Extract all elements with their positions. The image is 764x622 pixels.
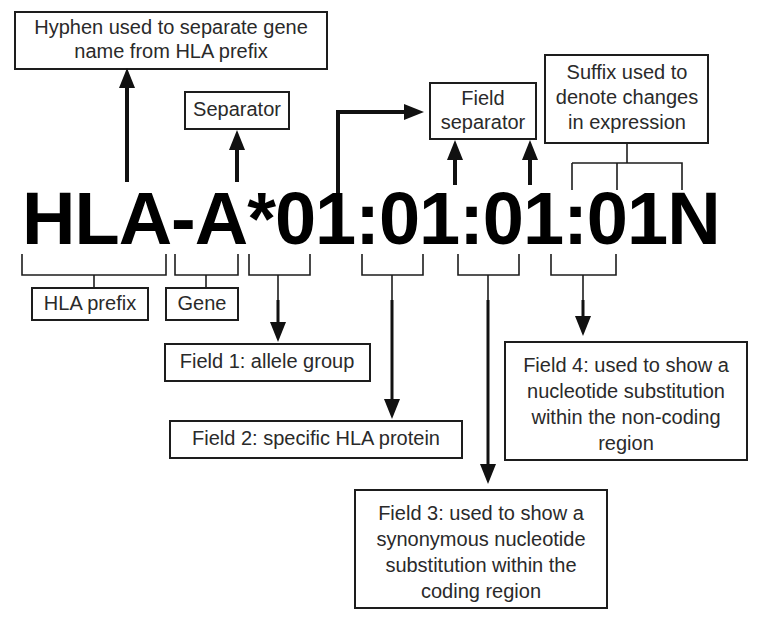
suffix-line2: denote changes [556, 86, 698, 108]
allele-string: HLA-A*01:01:01:01N [22, 177, 720, 260]
field4-arrow [575, 300, 591, 336]
field3-box: Field 3: used to show a synonymous nucle… [355, 490, 607, 608]
hyphen-note-arrow [119, 68, 135, 182]
bracket-field4 [551, 254, 616, 300]
field-separator-line2: separator [441, 111, 526, 133]
field3-line4: coding region [421, 580, 541, 602]
bracket-field2 [362, 254, 423, 300]
hla-nomenclature-diagram: Hyphen used to separate gene name from H… [0, 0, 764, 622]
field3-line1: Field 3: used to show a [378, 502, 585, 524]
gene-label: Gene [178, 292, 227, 314]
field2-arrow [384, 300, 400, 419]
field4-line3: within the non-coding [530, 406, 720, 428]
gene-box: Gene [166, 288, 238, 320]
hyphen-note-line1: Hyphen used to separate gene [34, 16, 308, 38]
field4-box: Field 4: used to show a nucleotide subst… [505, 342, 747, 460]
field1-arrow [270, 300, 286, 342]
bracket-field1 [249, 254, 310, 300]
field-separator-box: Field separator [430, 83, 536, 139]
suffix-line3: in expression [568, 111, 686, 133]
hyphen-note-box: Hyphen used to separate gene name from H… [15, 12, 327, 69]
bracket-field3 [458, 254, 519, 300]
field3-line3: substitution within the [385, 554, 576, 576]
field-separator-line1: Field [461, 87, 504, 109]
suffix-box: Suffix used to denote changes in express… [545, 55, 708, 143]
field2-label: Field 2: specific HLA protein [192, 427, 440, 449]
suffix-line1: Suffix used to [567, 61, 688, 83]
hyphen-note-line2: name from HLA prefix [74, 40, 267, 62]
field3-arrow [480, 300, 496, 484]
field4-line1: Field 4: used to show a [523, 354, 730, 376]
field4-line4: region [598, 432, 654, 454]
field3-line2: synonymous nucleotide [376, 528, 585, 550]
field2-box: Field 2: specific HLA protein [170, 421, 462, 458]
diagram-canvas: Hyphen used to separate gene name from H… [0, 0, 764, 622]
separator-box: Separator [185, 92, 289, 129]
hla-prefix-label: HLA prefix [44, 292, 136, 314]
field1-box: Field 1: allele group [165, 344, 370, 381]
hla-prefix-box: HLA prefix [32, 288, 148, 320]
separator-arrow [229, 130, 245, 182]
field1-label: Field 1: allele group [180, 350, 355, 372]
separator-label: Separator [193, 98, 281, 120]
field4-line2: nucleotide substitution [527, 380, 725, 402]
